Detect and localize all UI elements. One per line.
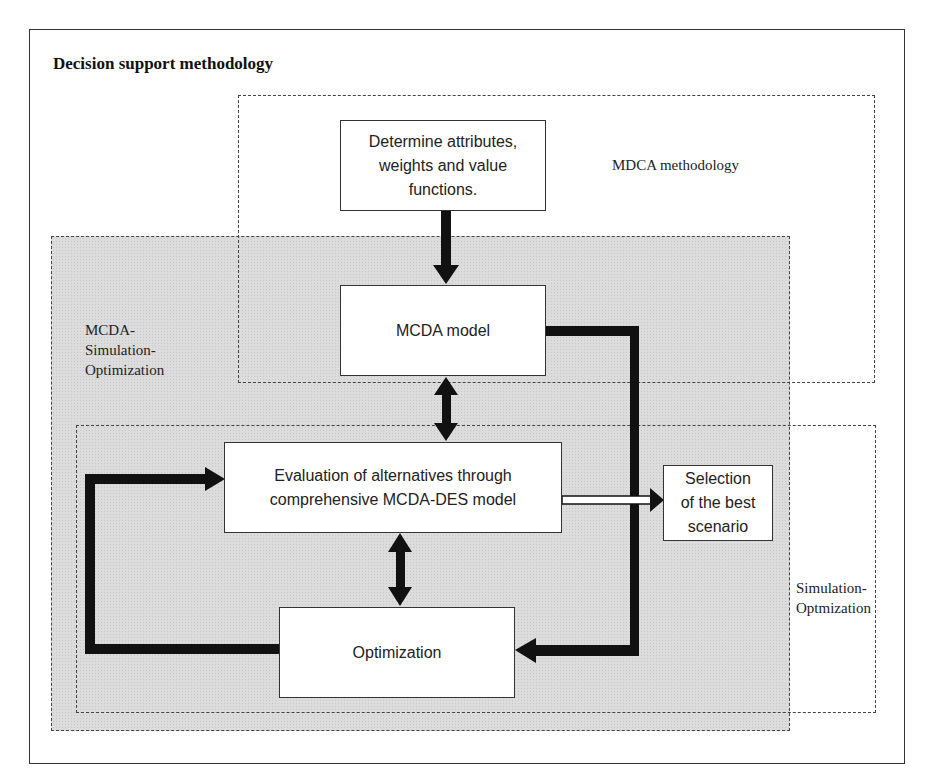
mcda-model-box: MCDA model xyxy=(340,285,546,376)
mcda-simulation-optimization-label: MCDA- Simulation- Optimization xyxy=(85,320,164,380)
evaluation-box: Evaluation of alternatives through compr… xyxy=(224,442,562,533)
diagram-title: Decision support methodology xyxy=(53,54,273,74)
mdca-methodology-label: MDCA methodology xyxy=(612,155,739,175)
mdca-methodology-region xyxy=(238,95,875,383)
determine-attributes-box: Determine attributes, weights and value … xyxy=(340,120,546,211)
selection-text: Selection of the best scenario xyxy=(681,467,756,539)
determine-attributes-text: Determine attributes, weights and value … xyxy=(369,130,518,202)
simulation-optimization-label: Simulation- Optmization xyxy=(796,578,871,618)
optimization-text: Optimization xyxy=(353,641,442,665)
optimization-box: Optimization xyxy=(279,607,515,698)
mcda-model-text: MCDA model xyxy=(396,319,490,343)
evaluation-text: Evaluation of alternatives through compr… xyxy=(270,464,516,512)
selection-box: Selection of the best scenario xyxy=(663,465,773,541)
